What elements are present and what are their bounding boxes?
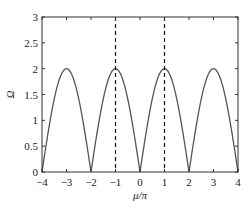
y-tick-label: 3 (33, 11, 39, 23)
x-tick-label: −3 (61, 176, 73, 188)
x-tick-label: −1 (110, 176, 122, 188)
chart: −4−3−2−10123400.511.522.53μ/πΩ (0, 0, 250, 208)
x-tick-label: 2 (186, 176, 192, 188)
x-tick-label: 3 (211, 176, 217, 188)
x-tick-label: 1 (162, 176, 168, 188)
y-tick-label: 0 (33, 166, 39, 178)
y-tick-label: 0.5 (24, 140, 38, 152)
y-tick-label: 2.5 (24, 37, 38, 49)
x-tick-label: −2 (85, 176, 97, 188)
x-axis-label: μ/π (132, 189, 148, 201)
x-tick-label: 4 (235, 176, 241, 188)
axes-frame (42, 17, 238, 172)
x-tick-label: 0 (137, 176, 143, 188)
y-tick-label: 1.5 (24, 89, 38, 101)
data-line (42, 69, 238, 172)
y-tick-label: 2 (33, 63, 39, 75)
y-tick-label: 1 (33, 114, 39, 126)
y-axis-label: Ω (4, 90, 16, 98)
